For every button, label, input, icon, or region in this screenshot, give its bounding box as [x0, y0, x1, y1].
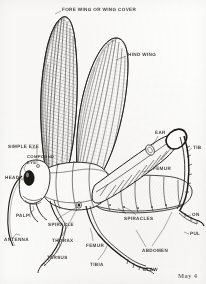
label-thorax: THORAX — [52, 239, 74, 244]
label-antenna: ANTENNA — [4, 238, 29, 243]
simple-eye-shape — [37, 165, 40, 168]
label-tibia-mid: TIBIA — [90, 263, 104, 268]
label-claw: CLAW — [143, 268, 158, 273]
label-ear: EAR — [155, 131, 166, 136]
label-fore-wing: FORE WING OR WING COVER — [62, 8, 136, 13]
label-femur-mid: FEMUR — [86, 244, 104, 249]
label-abdomen: ABDOMEN — [142, 249, 168, 254]
compound-eye-shape — [24, 171, 34, 186]
label-femur-hind: FEMUR — [153, 167, 171, 172]
label-simple-eye: SIMPLE EYE — [8, 145, 39, 150]
label-compound-eye-line2: EYE — [27, 161, 36, 165]
label-tarsus-hind: ON — [192, 213, 200, 218]
label-spiracles: SPIRACLES — [124, 217, 153, 222]
grasshopper-illustration — [0, 0, 206, 284]
figure-caption: May 4 — [178, 272, 198, 279]
label-hind-wing: HIND WING — [128, 53, 156, 58]
label-pulvillus: PUL — [190, 232, 200, 237]
label-tarsus: TARSUS — [47, 256, 68, 261]
label-spiracle: SPIRACLE — [48, 223, 74, 228]
label-palpi: PALPI — [16, 214, 31, 219]
label-compound-eye: COMPOUND — [27, 155, 54, 159]
figure-plate: FORE WING OR WING COVER HIND WING EAR TI… — [0, 0, 206, 284]
label-head: HEAD — [5, 176, 19, 181]
label-tibia-hind: TIB — [193, 146, 201, 151]
